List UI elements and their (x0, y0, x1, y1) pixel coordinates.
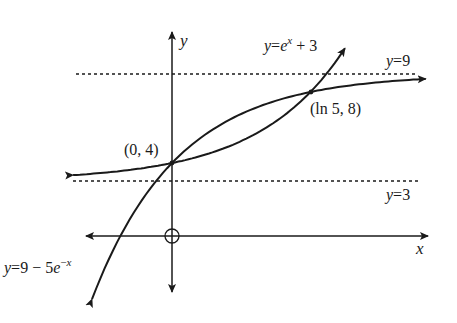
point-ln5-8-dot (309, 90, 314, 95)
point-0-4-dot (170, 161, 175, 166)
graph-canvas: y x y=9 y=3 y=ex + 3 y=9 − 5e−x (0, 4) (… (0, 0, 457, 323)
curve-exp-growth (73, 48, 345, 175)
asymptote-y9-label: y=9 (384, 52, 410, 70)
x-axis-label: x (415, 239, 424, 258)
curve-exp-decay-label: y=9 − 5e−x (2, 256, 71, 277)
point-0-4-label: (0, 4) (124, 141, 159, 159)
asymptote-y3-label: y=3 (384, 186, 410, 204)
curve-exp-growth-label: y=ex + 3 (262, 34, 317, 55)
y-axis-label: y (178, 31, 188, 50)
curve-exp-decay (92, 79, 426, 299)
point-ln5-8-label: (ln 5, 8) (310, 100, 361, 118)
